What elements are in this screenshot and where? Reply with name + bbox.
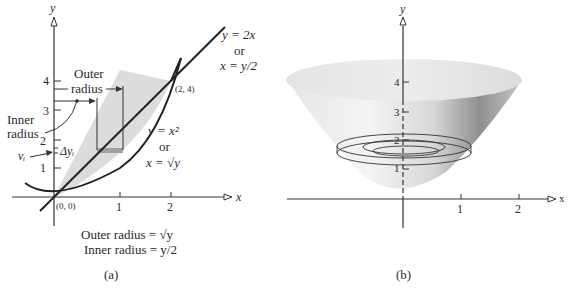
y-tick-label-4-a: 4 — [43, 74, 49, 88]
panel-a: y x 1 2 3 4 1 2 y = 2x or x = y/2 y = x²… — [7, 1, 257, 282]
delta-y-label: Δyᵢ — [59, 144, 74, 158]
outer-radius-formula: Outer radius = √y — [81, 227, 174, 242]
parabola-eq-2: x = √y — [145, 155, 180, 170]
x-tick-label-2-b: 2 — [515, 202, 521, 216]
y-tick-label-1-a: 1 — [40, 161, 46, 175]
x-tick-label-2-a: 2 — [167, 200, 173, 214]
caption-a: (a) — [104, 267, 118, 282]
y-axis-label-b: y — [399, 2, 406, 16]
y-tick-label-4-b: 4 — [394, 76, 400, 88]
x-axis-label-b: x — [559, 192, 565, 204]
figure-canvas: y x 1 2 3 4 1 2 y = 2x or x = y/2 y = x²… — [0, 0, 570, 292]
y-tick-label-3-a: 3 — [43, 104, 49, 118]
volume-element-arrow — [46, 150, 53, 156]
inner-radius-arrow — [89, 98, 96, 104]
inner-radius-label-2: radius — [7, 126, 39, 141]
intersection-label: (2, 4) — [175, 84, 195, 94]
parabola-eq-1: y = x² — [146, 123, 180, 138]
y-tick-label-2-a: 2 — [40, 134, 46, 148]
outer-radius-label-1: Outer — [74, 66, 104, 81]
volume-element-label: vᵢ — [18, 149, 25, 163]
caption-b: (b) — [396, 267, 411, 282]
x-tick-label-1-a: 1 — [116, 200, 122, 214]
paraboloid-rim — [286, 59, 522, 101]
inner-radius-formula: Inner radius = y/2 — [84, 242, 177, 257]
y-axis-arrow-a — [51, 17, 57, 26]
parabola-eq-or: or — [159, 139, 171, 154]
line-eq-1: y = 2x — [220, 27, 256, 42]
panel-b: x y 1 2 3 4 1 2 (b) — [286, 2, 565, 282]
inner-radius-pointer — [45, 101, 77, 133]
y-axis-label-a: y — [49, 1, 56, 15]
inner-radius-label-1: Inner — [7, 112, 35, 127]
x-axis-label-a: x — [235, 190, 242, 204]
line-eq-2: x = y/2 — [219, 58, 257, 73]
y-tick-label-1-b: 1 — [394, 162, 400, 174]
y-tick-label-2-b: 2 — [394, 134, 400, 146]
y-axis-arrow-b — [400, 17, 406, 25]
x-axis-arrow-b — [548, 196, 556, 202]
x-tick-label-1-b: 1 — [457, 202, 463, 216]
x-axis-arrow-a — [224, 194, 232, 200]
line-eq-or: or — [234, 43, 246, 58]
origin-label: (0, 0) — [56, 201, 76, 211]
outer-radius-label-2: radius — [71, 81, 103, 96]
y-tick-label-3-b: 3 — [394, 106, 400, 118]
